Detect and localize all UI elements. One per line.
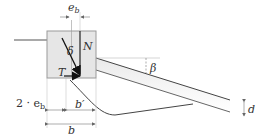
slope-top-line (96, 58, 230, 100)
slope-lower-line (96, 70, 230, 112)
label-d: d (248, 103, 255, 116)
label-N: N (82, 40, 93, 53)
slope-band (96, 58, 230, 112)
label-beta: β (149, 62, 156, 75)
foundation-diagram: eb δ N T β d 2 · eb b′ b (0, 0, 268, 135)
label-b-prime: b′ (75, 98, 85, 111)
label-delta: δ (67, 45, 74, 58)
label-b: b (68, 124, 75, 135)
label-2eb: 2 · eb (16, 97, 45, 111)
label-eb: eb (68, 1, 80, 15)
